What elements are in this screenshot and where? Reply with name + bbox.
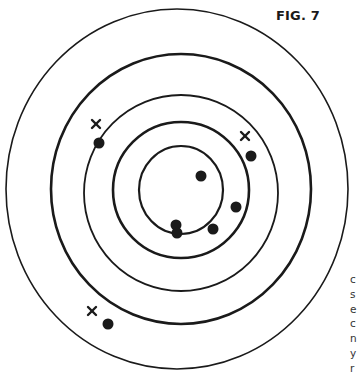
concentric-rings (6, 9, 348, 369)
hit-dot (172, 228, 183, 239)
hit-dot (246, 151, 257, 162)
figure-canvas: FIG. 7 csecnyr (0, 0, 358, 376)
side-text-fragment: y (350, 346, 357, 361)
x-mark-icon (88, 307, 96, 315)
hit-dot (94, 138, 105, 149)
side-text-fragment: c (350, 316, 357, 331)
side-text-fragment: c (350, 272, 357, 287)
x-marks (88, 120, 249, 315)
hit-dot (196, 171, 207, 182)
x-mark-icon (241, 132, 249, 140)
hit-dot (231, 202, 242, 213)
ring-1-outer (6, 9, 348, 369)
x-mark-icon (92, 120, 100, 128)
figure-label: FIG. 7 (276, 8, 320, 23)
side-text-fragment: r (350, 361, 357, 376)
cropped-side-text: csecnyr (350, 272, 357, 376)
side-text-fragment: e (350, 302, 357, 317)
hit-dot (208, 224, 219, 235)
side-text-fragment: n (350, 331, 357, 346)
target-diagram (0, 0, 358, 376)
hit-dot (103, 319, 114, 330)
ring-4 (113, 122, 249, 258)
ring-5-inner (139, 146, 223, 234)
side-text-fragment: s (350, 287, 357, 302)
